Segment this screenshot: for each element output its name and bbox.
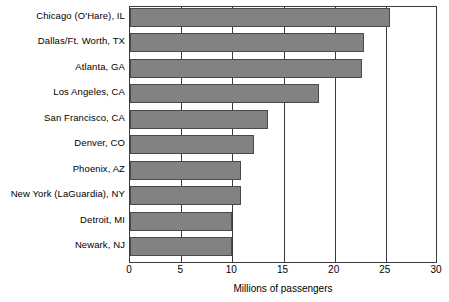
- x-axis-tick-label: 15: [263, 264, 303, 276]
- x-axis-tick-label: 0: [109, 264, 149, 276]
- x-axis-tick-mark: [284, 258, 285, 262]
- category-label: Dallas/Ft. Worth, TX: [0, 35, 125, 46]
- gridline: [386, 7, 387, 262]
- x-axis-title: Millions of passengers: [129, 283, 437, 295]
- x-axis-tick-label: 20: [314, 264, 354, 276]
- bar: [130, 59, 362, 78]
- category-label: Denver, CO: [0, 137, 125, 148]
- plot-area: [129, 6, 437, 263]
- bar: [130, 8, 390, 27]
- category-label: New York (LaGuardia), NY: [0, 188, 125, 199]
- category-label: Atlanta, GA: [0, 61, 125, 72]
- category-axis: Chicago (O'Hare), ILDallas/Ft. Worth, TX…: [0, 7, 125, 263]
- x-axis-tick-mark: [335, 258, 336, 262]
- bar: [130, 186, 241, 205]
- bar: [130, 84, 319, 103]
- x-axis-tick-mark: [232, 258, 233, 262]
- bar: [130, 135, 254, 154]
- category-label: Detroit, MI: [0, 214, 125, 225]
- x-axis-tick-mark: [181, 258, 182, 262]
- bar: [130, 212, 232, 231]
- x-axis-tick-label: 10: [211, 264, 251, 276]
- value-axis: 051015202530: [129, 264, 437, 278]
- category-label: San Francisco, CA: [0, 112, 125, 123]
- bar: [130, 110, 268, 129]
- x-axis-tick-mark: [386, 258, 387, 262]
- bar: [130, 161, 241, 180]
- x-axis-tick-label: 30: [416, 264, 449, 276]
- x-axis-tick-label: 25: [365, 264, 405, 276]
- category-label: Phoenix, AZ: [0, 163, 125, 174]
- category-label: Newark, NJ: [0, 239, 125, 250]
- category-label: Chicago (O'Hare), IL: [0, 10, 125, 21]
- x-axis-tick-label: 5: [160, 264, 200, 276]
- bar: [130, 237, 232, 256]
- bar-chart: Chicago (O'Hare), ILDallas/Ft. Worth, TX…: [0, 0, 449, 302]
- bar: [130, 33, 364, 52]
- category-label: Los Angeles, CA: [0, 86, 125, 97]
